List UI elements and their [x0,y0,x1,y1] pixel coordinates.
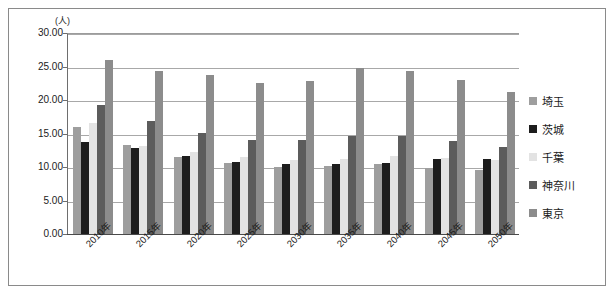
bar-group [369,34,419,234]
bar [425,168,433,234]
bar [306,81,314,234]
y-axis-tick-label: 10.00 [11,161,63,172]
bar [73,127,81,234]
bar [441,158,449,234]
y-axis: 30.0025.0020.0015.0010.005.000.00 [9,33,63,234]
bar [507,92,515,234]
chart-frame: (人) 30.0025.0020.0015.0010.005.000.00 20… [8,8,606,286]
legend-swatch-icon [529,125,537,133]
bar [105,60,113,234]
bar [433,159,441,234]
bar [256,83,264,234]
legend-item-label: 東京 [542,205,564,221]
bar [81,142,89,234]
bar [324,166,332,234]
bar [406,71,414,234]
bar-group [118,34,168,234]
bar [282,164,290,234]
legend-item: 千葉 [529,149,601,165]
bar [182,156,190,234]
legend-swatch-icon [529,153,537,161]
bar [174,157,182,234]
legend-item: 茨城 [529,121,601,137]
y-axis-tick-label: 5.00 [11,195,63,206]
bar [340,159,348,234]
bar-group [319,34,369,234]
chart-legend: 埼玉茨城千葉神奈川東京 [529,93,601,221]
legend-item-label: 埼玉 [542,93,564,109]
bar [475,170,483,234]
bar [356,68,364,234]
bar [224,163,232,234]
y-axis-tick-label: 0.00 [11,228,63,239]
legend-item: 神奈川 [529,177,601,193]
bar [97,105,105,234]
bar-group [219,34,269,234]
legend-item-label: 千葉 [542,149,564,165]
bar [332,164,340,234]
bar [457,80,465,234]
legend-item-label: 茨城 [542,121,564,137]
bar [131,148,139,234]
bar [491,160,499,234]
legend-swatch-icon [529,97,537,105]
bar [374,164,382,234]
bar [190,152,198,234]
plot-area [67,33,519,234]
bar [483,159,491,234]
bar-group [420,34,470,234]
y-axis-tick-label: 30.00 [11,27,63,38]
x-axis-labels: 2010年2015年2020年2025年2030年2035年2040年2045年… [67,236,519,280]
y-axis-tick-label: 20.00 [11,94,63,105]
bar [240,157,248,234]
bar [232,162,240,234]
bar-group [68,34,118,234]
legend-item-label: 神奈川 [542,177,575,193]
y-axis-tick-label: 25.00 [11,61,63,72]
bar [123,145,131,234]
y-axis-unit-label: (人) [55,14,70,27]
bar [390,156,398,234]
bar [382,163,390,234]
bar [274,167,282,234]
y-axis-tick-label: 15.00 [11,128,63,139]
bar [155,71,163,234]
bar-group [470,34,520,234]
legend-item: 埼玉 [529,93,601,109]
bar [89,123,97,234]
legend-item: 東京 [529,205,601,221]
bar [206,75,214,234]
bar-group [269,34,319,234]
bar [139,146,147,234]
bar [290,160,298,234]
bar-group [168,34,218,234]
legend-swatch-icon [529,209,537,217]
legend-swatch-icon [529,181,537,189]
